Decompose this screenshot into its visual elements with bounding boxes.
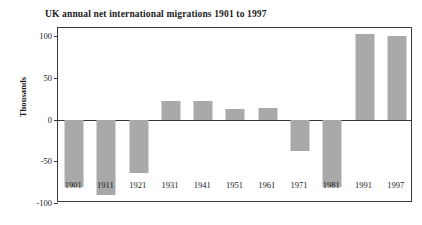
bar-slot — [90, 28, 122, 201]
x-tick-label: 1981 — [323, 180, 340, 190]
x-tick-label: 1921 — [129, 180, 146, 190]
chart-container: UK annual net international migrations 1… — [0, 0, 422, 225]
bar-slot — [252, 28, 284, 201]
bar-slot — [316, 28, 348, 201]
bar[interactable] — [65, 120, 84, 188]
x-tick-label: 1931 — [161, 180, 178, 190]
bar[interactable] — [226, 109, 245, 120]
y-tick-label: 100 — [39, 31, 52, 41]
bar[interactable] — [355, 34, 374, 120]
bar[interactable] — [194, 101, 213, 119]
y-tick-label: -100 — [36, 198, 52, 208]
chart-title: UK annual net international migrations 1… — [45, 8, 267, 20]
y-tick-mark — [54, 203, 58, 204]
plot-area: 100500-50-100 — [57, 27, 412, 202]
bar-slot — [219, 28, 251, 201]
bar[interactable] — [129, 120, 148, 173]
bar-slot — [155, 28, 187, 201]
bar[interactable] — [387, 36, 406, 120]
x-tick-label: 1951 — [226, 180, 243, 190]
x-tick-label: 1901 — [65, 180, 82, 190]
x-tick-label: 1991 — [355, 180, 372, 190]
bar[interactable] — [258, 108, 277, 120]
x-tick-label: 1941 — [194, 180, 211, 190]
bar[interactable] — [323, 120, 342, 188]
bar-slot — [348, 28, 380, 201]
x-tick-label: 1971 — [291, 180, 308, 190]
x-tick-label: 1911 — [97, 180, 114, 190]
y-axis-title: Thousands — [18, 67, 28, 127]
bar[interactable] — [291, 120, 310, 152]
bar[interactable] — [161, 101, 180, 120]
y-tick-label: -50 — [41, 156, 52, 166]
y-tick-label: 50 — [44, 73, 53, 83]
bar-slot — [284, 28, 316, 201]
bar-slot — [187, 28, 219, 201]
bar-series — [58, 28, 411, 201]
bar-slot — [58, 28, 90, 201]
bar-slot — [123, 28, 155, 201]
y-tick-label: 0 — [48, 115, 52, 125]
bar-slot — [381, 28, 413, 201]
x-tick-label: 1961 — [258, 180, 275, 190]
x-tick-label: 1997 — [387, 180, 404, 190]
